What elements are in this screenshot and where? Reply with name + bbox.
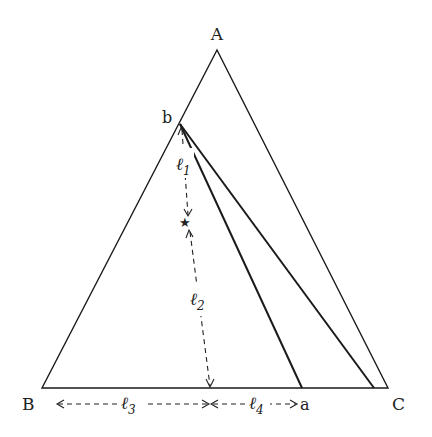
vertex-label-C: C xyxy=(392,394,405,414)
arrow-l4-right xyxy=(290,400,297,408)
vertex-label-A: A xyxy=(210,24,224,44)
vertex-label-B: B xyxy=(22,394,35,414)
arrow-l2-top xyxy=(186,230,193,238)
point-label-b: b xyxy=(162,108,172,127)
point-label-a: a xyxy=(300,395,310,414)
star-point: ★ xyxy=(179,215,191,230)
line-b-to-base-right xyxy=(180,124,374,388)
triangle-diagram: ★ A B C b a ℓ1 ℓ2 ℓ3 ℓ4 xyxy=(0,0,432,437)
line-b-to-a xyxy=(180,124,302,388)
arrow-l2-bottom xyxy=(206,379,214,387)
